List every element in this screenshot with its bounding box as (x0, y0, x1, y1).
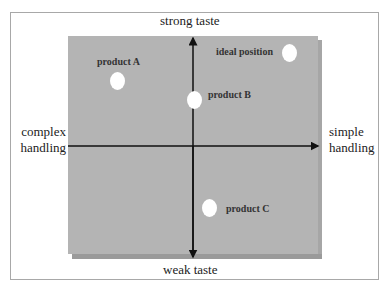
axis-label-handling-left: handling (14, 140, 66, 156)
axis-label-simple: simple (329, 124, 385, 140)
axis-label-complex-handling: complex handling (14, 124, 66, 156)
label-ideal-position: ideal position (216, 46, 273, 57)
dot-ideal-position (282, 44, 297, 62)
axis-label-handling-right: handling (329, 140, 385, 156)
label-product-b: product B (208, 89, 251, 100)
label-product-a: product A (97, 56, 140, 67)
label-product-c: product C (226, 203, 269, 214)
dot-product-a (110, 72, 125, 90)
axis-label-complex: complex (14, 124, 66, 140)
axis-label-strong-taste: strong taste (160, 13, 220, 29)
axis-label-simple-handling: simple handling (329, 124, 385, 156)
axis-label-weak-taste: weak taste (163, 262, 218, 278)
dot-product-c (202, 199, 217, 217)
dot-product-b (187, 91, 202, 109)
